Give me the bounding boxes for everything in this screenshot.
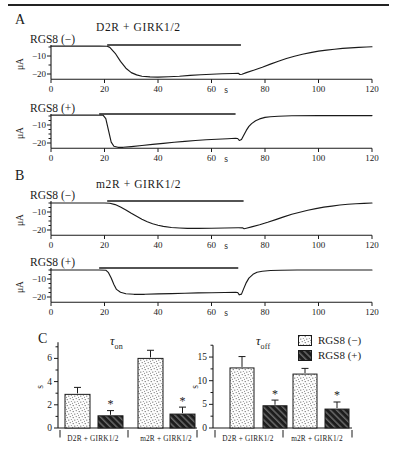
trace-label: RGS8 (+) — [30, 102, 75, 115]
x-tick-label: 80 — [261, 153, 271, 163]
x-tick-label: 0 — [49, 153, 54, 163]
y-tick-label: 15 — [198, 352, 208, 362]
figure: A D2R + GIRK1/2 RGS8 (−)−10−200204060801… — [0, 0, 394, 450]
y-tick-label: −20 — [32, 69, 47, 79]
x-tick-label: 120 — [365, 307, 379, 317]
panel-a-title: D2R + GIRK1/2 — [96, 21, 181, 33]
x-tick-label: 80 — [261, 84, 271, 94]
y-tick-label: 0 — [202, 423, 207, 433]
x-tick-label: 100 — [312, 307, 326, 317]
y-tick-label: 2 — [47, 400, 52, 410]
x-tick-label: 20 — [100, 84, 110, 94]
trace-label: RGS8 (−) — [30, 33, 75, 46]
x-tick-label: 100 — [312, 84, 326, 94]
y-tick-label: −10 — [32, 274, 47, 284]
legend-row-rgs8-plus: RGS8 (+) — [298, 349, 361, 361]
bar-stipple — [230, 368, 254, 428]
x-tick-label: 40 — [154, 240, 164, 250]
trace-chart-a-rgs8-plus: RGS8 (+)−10−20020406080100120sμA — [10, 102, 385, 164]
y-axis-unit-label: μA — [15, 281, 25, 293]
legend: RGS8 (−) RGS8 (+) — [298, 334, 361, 361]
x-tick-label: 80 — [261, 240, 271, 250]
x-tick-label: 20 — [100, 307, 110, 317]
y-axis-unit-label: μA — [15, 127, 25, 139]
x-tick-label: 0 — [49, 84, 54, 94]
x-tick-label: 120 — [365, 84, 379, 94]
legend-swatch-dark-hatch — [298, 350, 312, 361]
x-tick-label: 40 — [154, 84, 164, 94]
x-tick-label: 120 — [365, 153, 379, 163]
significance-star: * — [334, 388, 340, 402]
category-label: m2R + GIRK1/2 — [291, 434, 343, 443]
panel-b-label: B — [15, 169, 24, 183]
y-tick-label: −10 — [32, 207, 47, 217]
y-axis-unit-label: s — [190, 385, 200, 389]
y-tick-label: 0 — [47, 423, 52, 433]
y-axis-unit-label: s — [35, 385, 45, 389]
bar-dark-hatch — [263, 406, 287, 428]
significance-star: * — [108, 397, 114, 411]
x-axis-unit-label: s — [224, 85, 228, 95]
current-trace — [51, 203, 372, 229]
y-tick-label: 6 — [47, 353, 52, 363]
y-tick-label: 5 — [202, 399, 207, 409]
legend-row-rgs8-minus: RGS8 (−) — [298, 334, 361, 346]
top-rule — [8, 4, 389, 6]
bar-chart-tau-on: 0246*D2R + GIRK1/2*m2R + GIRK1/2s — [36, 332, 212, 450]
x-tick-label: 100 — [312, 153, 326, 163]
trace-chart-b-rgs8-plus: RGS8 (+)−10−20020406080100120sμA — [10, 256, 385, 318]
x-tick-label: 60 — [207, 240, 217, 250]
x-tick-label: 20 — [100, 153, 110, 163]
x-tick-label: 40 — [154, 307, 164, 317]
y-tick-label: −20 — [32, 138, 47, 148]
category-label: D2R + GIRK1/2 — [67, 434, 118, 443]
x-axis-unit-label: s — [224, 308, 228, 318]
legend-label-rgs8-plus: RGS8 (+) — [318, 349, 361, 361]
x-tick-label: 120 — [365, 240, 379, 250]
x-tick-label: 100 — [312, 240, 326, 250]
bar-stipple — [138, 358, 163, 428]
y-axis-unit-label: μA — [15, 214, 25, 226]
significance-star: * — [272, 387, 278, 401]
x-tick-label: 20 — [100, 240, 110, 250]
current-trace — [51, 46, 372, 77]
x-tick-label: 80 — [261, 307, 271, 317]
trace-chart-a-rgs8-minus: RGS8 (−)−10−20020406080100120sμA — [10, 33, 385, 95]
legend-label-rgs8-minus: RGS8 (−) — [318, 334, 361, 346]
legend-swatch-stipple — [298, 335, 312, 346]
category-label: m2R + GIRK1/2 — [140, 434, 192, 443]
x-tick-label: 60 — [207, 84, 217, 94]
panel-a-label: A — [15, 13, 25, 27]
bar-dark-hatch — [325, 409, 349, 428]
x-tick-label: 40 — [154, 153, 164, 163]
current-trace — [51, 270, 372, 295]
bar-stipple — [293, 374, 317, 428]
y-tick-label: −20 — [32, 225, 47, 235]
significance-star: * — [180, 394, 186, 408]
x-axis-unit-label: s — [224, 241, 228, 251]
bar-stipple — [65, 394, 90, 428]
trace-label: RGS8 (−) — [30, 189, 75, 202]
current-trace — [51, 115, 372, 147]
y-tick-label: 10 — [198, 376, 208, 386]
trace-chart-b-rgs8-minus: RGS8 (−)−10−20020406080100120sμA — [10, 189, 385, 251]
y-tick-label: 4 — [47, 377, 52, 387]
bar-dark-hatch — [98, 416, 123, 428]
y-tick-label: −10 — [32, 120, 47, 130]
x-axis-unit-label: s — [224, 154, 228, 164]
category-label: D2R + GIRK1/2 — [222, 434, 273, 443]
trace-label: RGS8 (+) — [30, 256, 75, 269]
x-tick-label: 0 — [49, 240, 54, 250]
x-tick-label: 60 — [207, 307, 217, 317]
x-tick-label: 0 — [49, 307, 54, 317]
x-tick-label: 60 — [207, 153, 217, 163]
y-axis-unit-label: μA — [15, 58, 25, 70]
y-tick-label: −20 — [32, 292, 47, 302]
y-tick-label: −10 — [32, 51, 47, 61]
